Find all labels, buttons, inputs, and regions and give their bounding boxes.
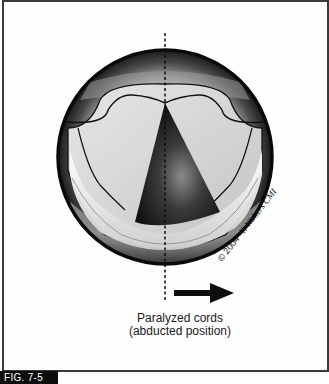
arrow-right-icon: [174, 283, 234, 303]
caption-line-2: (abducted position): [120, 325, 240, 338]
figure-label: FIG. 7-5: [0, 371, 58, 384]
figure-caption: Paralyzed cords (abducted position): [120, 312, 240, 338]
